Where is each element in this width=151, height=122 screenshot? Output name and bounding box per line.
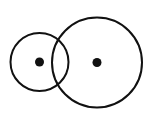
small-circle-center-dot — [35, 58, 44, 67]
two-circles-diagram — [0, 0, 151, 122]
large-circle-center-dot — [93, 58, 102, 67]
